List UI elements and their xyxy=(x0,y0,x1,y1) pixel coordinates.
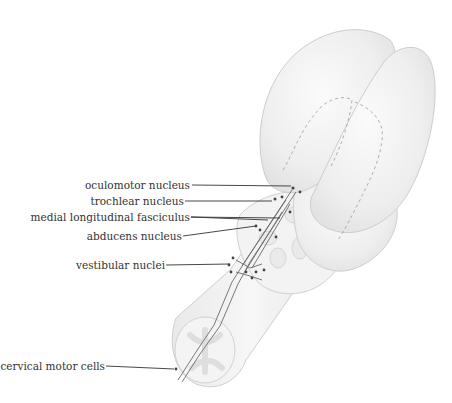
brainstem-illustration xyxy=(0,0,452,403)
label-oculomotor-nucleus: oculomotor nucleus xyxy=(85,179,190,191)
diagram-stage: oculomotor nucleus trochlear nucleus med… xyxy=(0,0,452,403)
label-trochlear-nucleus: trochlear nucleus xyxy=(90,195,184,207)
label-medial-longitudinal-fasciculus: medial longitudinal fasciculus xyxy=(31,211,190,223)
label-abducens-nucleus: abducens nucleus xyxy=(87,230,182,242)
label-cervical-motor-cells: cervical motor cells xyxy=(0,360,105,372)
label-vestibular-nuclei: vestibular nuclei xyxy=(76,259,165,271)
